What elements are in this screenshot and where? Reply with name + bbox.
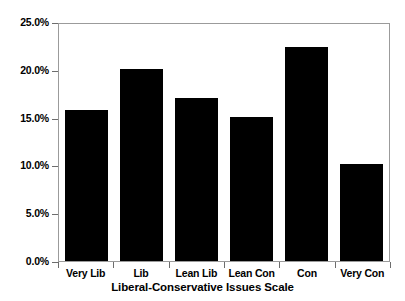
bar-slot	[59, 24, 114, 261]
x-tick-label: Very Con	[335, 266, 390, 280]
bar[interactable]	[175, 98, 218, 261]
bars-layer	[59, 24, 389, 261]
y-axis: 0.0%5.0%10.0%15.0%20.0%25.0%	[0, 23, 58, 262]
bar-slot	[279, 24, 334, 261]
x-tick-label: Very Lib	[58, 266, 113, 280]
y-tick-label: 25.0%	[20, 16, 49, 29]
x-tick-label: Lean Lib	[169, 266, 224, 280]
cropped-chart-title	[120, 0, 280, 3]
bar-slot	[114, 24, 169, 261]
y-tick-label: 10.0%	[20, 159, 49, 172]
y-tick-label: 5.0%	[26, 207, 49, 220]
x-axis: Very LibLibLean LibLean ConConVery Con	[58, 262, 390, 282]
bar-slot	[169, 24, 224, 261]
x-tick-label: Con	[279, 266, 334, 280]
bar-slot	[334, 24, 389, 261]
y-tick-label: 15.0%	[20, 112, 49, 125]
x-tick-labels: Very LibLibLean LibLean ConConVery Con	[58, 266, 390, 280]
x-tick-label: Lib	[113, 266, 168, 280]
y-tick-label: 0.0%	[26, 255, 49, 268]
bar[interactable]	[340, 164, 383, 261]
bar-slot	[224, 24, 279, 261]
plot-area	[58, 23, 390, 262]
bar[interactable]	[230, 117, 273, 261]
bar[interactable]	[65, 110, 108, 261]
bar-chart: 0.0%5.0%10.0%15.0%20.0%25.0% Very LibLib…	[0, 0, 405, 301]
x-axis-title: Liberal-Conservative Issues Scale	[0, 280, 405, 294]
x-tick-label: Lean Con	[224, 266, 279, 280]
x-tick-mark	[390, 262, 391, 268]
bar[interactable]	[285, 47, 328, 261]
y-tick-label: 20.0%	[20, 64, 49, 77]
bar[interactable]	[120, 69, 163, 261]
